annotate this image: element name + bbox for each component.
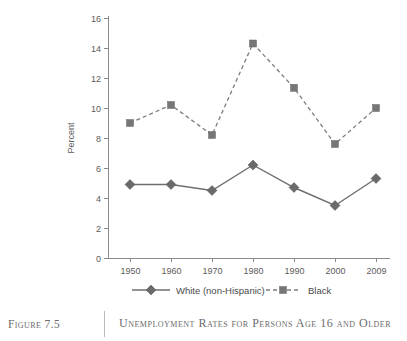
data-point-marker — [125, 180, 135, 190]
chart-container: 0246810121416Percent19501960197019801990… — [0, 0, 407, 305]
y-axis-tick-label: 12 — [91, 74, 101, 84]
legend-label-2: Black — [308, 285, 331, 296]
caption-figure-number: Figure 7.5 — [0, 318, 104, 330]
x-axis-tick-label: 1990 — [284, 266, 304, 276]
data-point-marker — [371, 174, 381, 184]
legend-marker-1 — [146, 285, 156, 295]
y-axis-tick-label: 10 — [91, 104, 101, 114]
y-axis-tick-label: 4 — [96, 194, 101, 204]
x-axis-tick-label: 1950 — [120, 266, 140, 276]
data-point-marker — [209, 132, 216, 139]
figure-caption: Figure 7.5 Unemployment Rates for Person… — [0, 306, 407, 341]
data-point-marker — [332, 141, 339, 148]
figure-container: 0246810121416Percent19501960197019801990… — [0, 0, 407, 341]
data-point-marker — [248, 160, 258, 170]
x-axis-tick-label: 2009 — [366, 266, 386, 276]
data-point-marker — [250, 40, 257, 47]
x-axis-tick-label: 1960 — [161, 266, 181, 276]
series-line-2 — [130, 44, 376, 145]
y-axis-tick-label: 0 — [96, 254, 101, 264]
y-axis-title: Percent — [66, 122, 76, 154]
legend-label-1: White (non-Hispanic) — [176, 285, 265, 296]
y-axis-tick-label: 14 — [91, 44, 101, 54]
x-axis-tick-label: 1980 — [243, 266, 263, 276]
line-chart: 0246810121416Percent19501960197019801990… — [0, 0, 407, 305]
x-axis-tick-label: 2000 — [325, 266, 345, 276]
legend-marker-2 — [280, 287, 287, 294]
data-point-marker — [373, 105, 380, 112]
data-point-marker — [166, 180, 176, 190]
y-axis-tick-label: 6 — [96, 164, 101, 174]
data-point-marker — [291, 84, 298, 91]
data-point-marker — [289, 183, 299, 193]
x-axis-tick-label: 1970 — [202, 266, 222, 276]
data-point-marker — [207, 186, 217, 196]
data-point-marker — [127, 120, 134, 127]
caption-title-text: Unemployment Rates for Persons Age 16 an… — [105, 316, 391, 331]
y-axis-tick-label: 16 — [91, 14, 101, 24]
data-point-marker — [168, 102, 175, 109]
y-axis-tick-label: 2 — [96, 224, 101, 234]
y-axis-tick-label: 8 — [96, 134, 101, 144]
data-point-marker — [330, 201, 340, 211]
